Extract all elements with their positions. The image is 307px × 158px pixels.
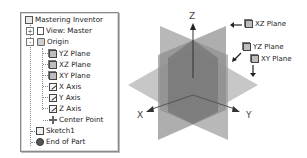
arrow-down-icon (250, 73, 256, 77)
callout-yz-plane: YZ Plane (243, 43, 284, 51)
x-axis-arrow-icon (146, 106, 154, 112)
z-axis-label: Z (189, 11, 195, 21)
callout-xy-plane: XY Plane (251, 55, 292, 63)
arrow-left-icon (230, 22, 234, 28)
callout-label: XY Plane (261, 55, 292, 63)
callout-label: XZ Plane (255, 20, 286, 28)
y-axis-label: Y (246, 110, 252, 120)
plane-icon (243, 43, 251, 51)
callout-label: YZ Plane (253, 43, 284, 51)
z-axis-arrow-icon (190, 23, 196, 30)
plane-icon (245, 20, 253, 28)
callout-xz-plane: XZ Plane (245, 20, 286, 28)
y-axis-arrow-icon (232, 106, 240, 112)
x-axis-label: X (137, 110, 143, 120)
plane-icon (251, 55, 259, 63)
